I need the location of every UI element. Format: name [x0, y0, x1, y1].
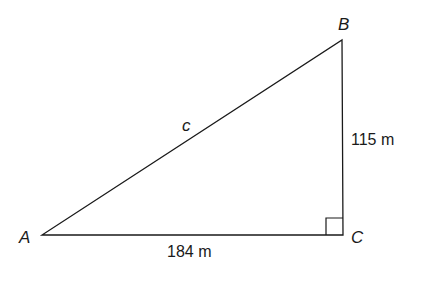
vertical-side-label: 115 m: [351, 131, 394, 148]
horizontal-side-label: 184 m: [167, 243, 211, 260]
vertex-label-b: B: [338, 15, 349, 34]
triangle-outline: [42, 40, 343, 235]
triangle-figure: B A C c 115 m 184 m: [0, 0, 421, 281]
vertex-label-a: A: [18, 228, 30, 247]
vertex-label-c: C: [351, 228, 364, 247]
triangle-diagram: B A C c 115 m 184 m: [0, 0, 421, 281]
right-angle-marker: [326, 218, 343, 235]
hypotenuse-label: c: [182, 116, 191, 135]
